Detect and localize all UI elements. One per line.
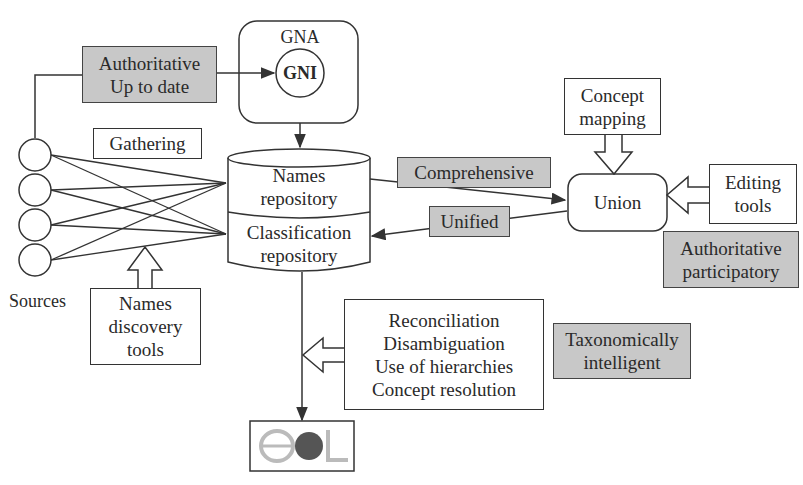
source-circle — [19, 139, 51, 171]
gni-label: GNI — [276, 62, 324, 85]
sources-label: Sources — [0, 290, 75, 313]
source-circles — [19, 139, 51, 276]
gathering-box: Gathering — [93, 128, 202, 159]
source-circle — [19, 244, 51, 276]
source-to-auth-line — [35, 75, 82, 138]
editing-tools-hollow-arrow — [667, 177, 710, 213]
services-box: Reconciliation Disambiguation Use of hie… — [344, 299, 544, 410]
names-discovery-hollow-arrow — [128, 247, 162, 288]
source-links — [51, 155, 226, 260]
classification-repository-label: Classification repository — [228, 221, 370, 267]
concept-mapping-hollow-arrow — [595, 135, 632, 174]
authoritative-participatory-box: Authoritative participatory — [663, 231, 799, 288]
unified-box: Unified — [429, 206, 510, 237]
names-repository-label: Names repository — [228, 164, 370, 210]
eol-logo — [250, 421, 354, 471]
names-discovery-tools-box: Names discovery tools — [90, 288, 201, 365]
authoritative-up-to-date-box: Authoritative Up to date — [82, 46, 217, 103]
services-hollow-arrow — [303, 338, 344, 372]
union-label: Union — [568, 191, 667, 214]
comprehensive-box: Comprehensive — [397, 157, 551, 188]
editing-tools-box: Editing tools — [709, 164, 797, 224]
source-circle — [19, 174, 51, 206]
gna-label: GNA — [270, 26, 330, 49]
source-circle — [19, 209, 51, 241]
taxonomically-intelligent-box: Taxonomically intelligent — [553, 323, 691, 379]
concept-mapping-box: Concept mapping — [564, 78, 661, 135]
globe-icon — [295, 432, 323, 460]
